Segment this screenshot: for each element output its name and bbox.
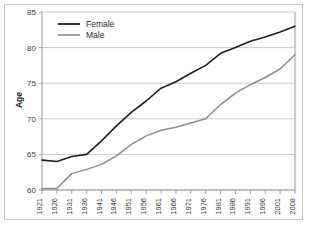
x-tick-label: 1966 xyxy=(169,198,178,215)
x-tick-label: 1981 xyxy=(214,198,223,215)
plot-area-wrapper: 606570758085 192119261931193619411946195… xyxy=(0,0,310,234)
x-tick-label: 1991 xyxy=(243,198,252,215)
x-tick-label: 1931 xyxy=(65,198,74,215)
chart-figure: 606570758085 192119261931193619411946195… xyxy=(0,0,310,234)
x-tick-label: 1996 xyxy=(258,198,267,215)
x-tick-label: 2001 xyxy=(273,198,282,215)
y-tick-labels-group: 606570758085 xyxy=(27,8,42,195)
legend: FemaleMale xyxy=(58,19,115,40)
x-tick-label: 1926 xyxy=(50,198,59,215)
x-tick-label: 1946 xyxy=(109,198,118,215)
y-tick-label: 80 xyxy=(27,44,36,53)
x-tick-label: 2008 xyxy=(288,198,297,215)
x-tick-label: 1986 xyxy=(228,198,237,215)
x-tick-label: 1936 xyxy=(80,198,89,215)
x-tick-label: 1976 xyxy=(199,198,208,215)
x-tick-label: 1941 xyxy=(95,198,104,215)
x-tick-labels-group: 1921192619311936194119461951195619611966… xyxy=(35,198,297,215)
x-tick-label: 1971 xyxy=(184,198,193,215)
x-tick-label: 1956 xyxy=(139,198,148,215)
x-tick-label: 1921 xyxy=(35,198,44,215)
y-tick-label: 75 xyxy=(27,79,36,88)
series-group xyxy=(42,26,295,188)
legend-label-female: Female xyxy=(86,19,115,29)
x-tick-marks-group xyxy=(42,190,295,194)
line-chart-svg: 606570758085 192119261931193619411946195… xyxy=(0,0,310,234)
x-tick-label: 1961 xyxy=(154,198,163,215)
y-axis-title: Age xyxy=(14,92,24,108)
y-tick-label: 60 xyxy=(27,186,36,195)
y-tick-label: 70 xyxy=(27,115,36,124)
y-tick-label: 65 xyxy=(27,150,36,159)
series-line-female xyxy=(42,26,295,161)
y-tick-label: 85 xyxy=(27,8,36,17)
legend-label-male: Male xyxy=(86,30,105,40)
x-tick-label: 1951 xyxy=(124,198,133,215)
series-line-male xyxy=(42,55,295,189)
